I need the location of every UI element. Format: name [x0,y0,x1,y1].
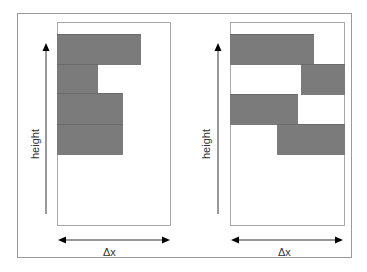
right-x-axis-label: Δx [278,246,291,258]
right-y-axis-label: height [200,126,212,162]
right-height-arrow-icon [215,43,222,214]
left-y-axis-label: height [29,126,41,162]
axis-arrows [0,0,367,272]
left-height-arrow-icon [43,43,50,214]
left-x-axis-label: Δx [103,246,116,258]
left-dx-arrow-icon [58,237,170,244]
right-dx-arrow-icon [231,237,343,244]
